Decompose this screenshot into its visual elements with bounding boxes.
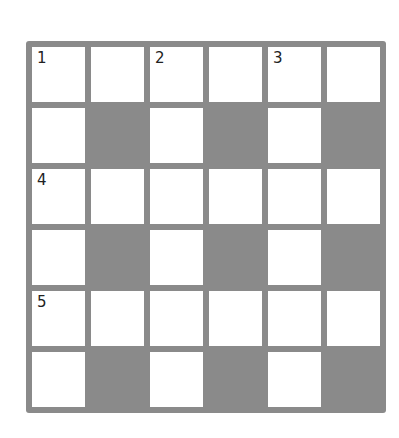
cell-r1-c2[interactable] [91, 47, 144, 102]
block-cell-r6-c4 [206, 349, 265, 410]
clue-number: 2 [155, 51, 165, 66]
clue-number: 5 [37, 295, 47, 310]
block-cell-r2-c4 [206, 105, 265, 166]
cell-r3-c3[interactable] [150, 169, 203, 224]
cell-r5-c2[interactable] [91, 291, 144, 346]
cell-r2-c5[interactable] [268, 108, 321, 163]
block-cell-r4-c2 [88, 227, 147, 288]
cell-r3-c1[interactable]: 4 [32, 169, 85, 224]
cell-r5-c3[interactable] [150, 291, 203, 346]
block-cell-r2-c6 [324, 105, 383, 166]
cell-r6-c5[interactable] [268, 352, 321, 407]
cell-r3-c6[interactable] [327, 169, 380, 224]
cell-r4-c5[interactable] [268, 230, 321, 285]
cell-r1-c5[interactable]: 3 [268, 47, 321, 102]
cell-r6-c1[interactable] [32, 352, 85, 407]
cell-r4-c1[interactable] [32, 230, 85, 285]
cell-r3-c5[interactable] [268, 169, 321, 224]
cell-r1-c1[interactable]: 1 [32, 47, 85, 102]
clue-number: 4 [37, 173, 47, 188]
clue-number: 3 [273, 51, 283, 66]
cell-r2-c1[interactable] [32, 108, 85, 163]
crossword-grid: 1 2 3 4 5 [26, 41, 386, 413]
block-cell-r6-c2 [88, 349, 147, 410]
cell-r6-c3[interactable] [150, 352, 203, 407]
cell-r3-c4[interactable] [209, 169, 262, 224]
block-cell-r6-c6 [324, 349, 383, 410]
cell-r4-c3[interactable] [150, 230, 203, 285]
cell-r5-c1[interactable]: 5 [32, 291, 85, 346]
cell-r2-c3[interactable] [150, 108, 203, 163]
cell-r1-c4[interactable] [209, 47, 262, 102]
block-cell-r4-c6 [324, 227, 383, 288]
cell-r5-c4[interactable] [209, 291, 262, 346]
cell-r1-c6[interactable] [327, 47, 380, 102]
cell-r1-c3[interactable]: 2 [150, 47, 203, 102]
cell-r5-c6[interactable] [327, 291, 380, 346]
cell-r5-c5[interactable] [268, 291, 321, 346]
clue-number: 1 [37, 51, 47, 66]
block-cell-r4-c4 [206, 227, 265, 288]
block-cell-r2-c2 [88, 105, 147, 166]
cell-r3-c2[interactable] [91, 169, 144, 224]
